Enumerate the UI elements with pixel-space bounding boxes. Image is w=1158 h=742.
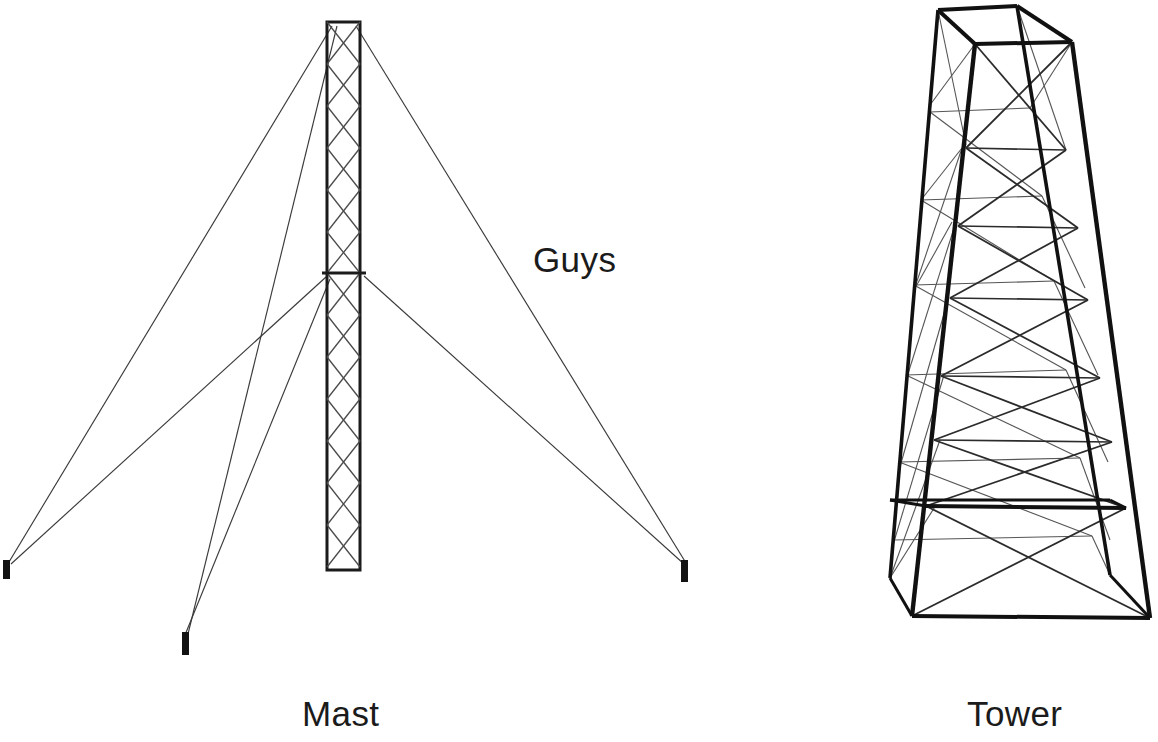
diagram-canvas — [0, 0, 1158, 742]
canvas-background — [0, 0, 1158, 742]
tower-mid-ring — [926, 506, 1126, 508]
anchor-center — [182, 632, 189, 655]
anchor-right — [681, 560, 688, 582]
tower-base-rail — [912, 616, 1150, 618]
figure-root: Guys Mast Tower — [0, 0, 1158, 742]
anchor-left — [3, 560, 10, 579]
